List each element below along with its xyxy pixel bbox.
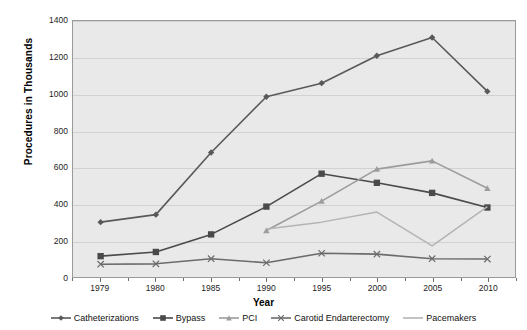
series-catheterizations (97, 34, 490, 225)
line-chart: Procedures in Thousands 1400120010008006… (0, 0, 527, 330)
x-tick-1985: 1985 (183, 283, 239, 293)
tick-boundary (72, 278, 73, 281)
tick-mark-2005 (433, 278, 434, 282)
tick-boundary (405, 278, 406, 281)
tick-mark-2000 (377, 278, 378, 282)
legend-label: Catheterizations (74, 313, 139, 323)
y-tick-0: 0 (22, 274, 68, 282)
legend-marker-square-icon (153, 313, 173, 323)
y-axis-title: Procedures in Thousands (23, 22, 34, 182)
y-tick-600: 600 (22, 163, 68, 171)
tick-mark-1990 (266, 278, 267, 282)
y-tick-1200: 1200 (22, 53, 68, 61)
tick-boundary (128, 278, 129, 281)
legend-label: Carotid Endarterectomy (294, 313, 389, 323)
tick-mark-1980 (155, 278, 156, 282)
x-tick-1980: 1980 (127, 283, 183, 293)
legend-item-bypass[interactable]: Bypass (153, 313, 206, 323)
y-tick-1400: 1400 (22, 16, 68, 24)
plot-area (72, 20, 516, 278)
legend-label: Bypass (176, 313, 206, 323)
tick-boundary (461, 278, 462, 281)
y-tick-400: 400 (22, 200, 68, 208)
tick-mark-2010 (488, 278, 489, 282)
y-tick-1000: 1000 (22, 90, 68, 98)
legend-marker-x-icon (271, 313, 291, 323)
chart-legend: CatheterizationsBypassPCICarotid Endarte… (0, 313, 527, 323)
series-pci (263, 158, 490, 234)
y-tick-200: 200 (22, 237, 68, 245)
tick-boundary (239, 278, 240, 281)
x-axis-title: Year (0, 297, 527, 308)
legend-marker-diamond-icon (51, 313, 71, 323)
tick-boundary (350, 278, 351, 281)
y-tick-800: 800 (22, 127, 68, 135)
legend-label: PCI (242, 313, 257, 323)
x-tick-2000: 2000 (349, 283, 405, 293)
legend-marker-triangle-icon (219, 313, 239, 323)
legend-item-pacemakers[interactable]: Pacemakers (403, 313, 476, 323)
x-tick-1979: 1979 (72, 283, 128, 293)
tick-boundary (516, 278, 517, 281)
tick-mark-1985 (211, 278, 212, 282)
legend-marker-none-icon (403, 313, 423, 323)
tick-boundary (294, 278, 295, 281)
x-tick-1990: 1990 (238, 283, 294, 293)
x-tick-2005: 2005 (405, 283, 461, 293)
x-tick-2010: 2010 (460, 283, 516, 293)
legend-item-pci[interactable]: PCI (219, 313, 257, 323)
series-lines (73, 21, 515, 277)
legend-label: Pacemakers (426, 313, 476, 323)
tick-mark-1979 (100, 278, 101, 282)
legend-item-carotid-endarterectomy[interactable]: Carotid Endarterectomy (271, 313, 389, 323)
legend-item-catheterizations[interactable]: Catheterizations (51, 313, 139, 323)
tick-mark-1995 (322, 278, 323, 282)
x-tick-1995: 1995 (294, 283, 350, 293)
tick-boundary (183, 278, 184, 281)
